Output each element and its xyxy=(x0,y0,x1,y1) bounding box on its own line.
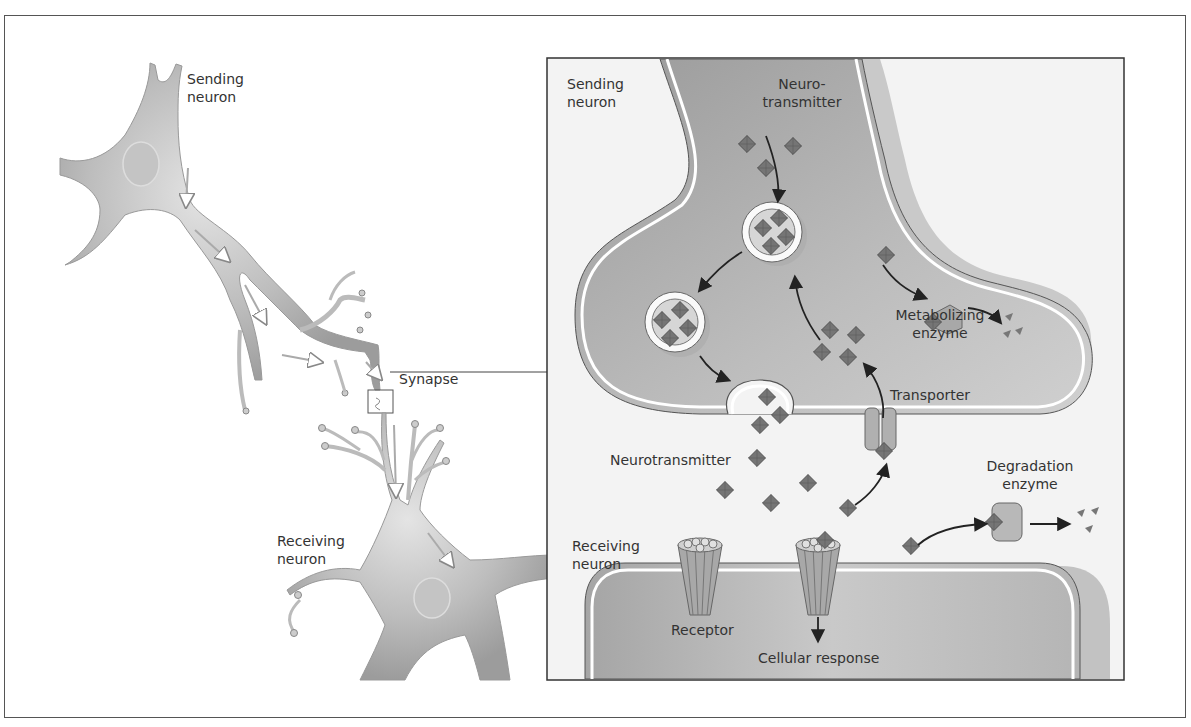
label-sending-neuron: Sending neuron xyxy=(187,70,244,106)
synapse-highlight-box xyxy=(368,390,393,413)
label-transporter: Transporter xyxy=(890,386,970,404)
label-synapse: Synapse xyxy=(399,370,458,388)
label-receptor: Receptor xyxy=(671,621,734,639)
label-metabolizing-enzyme: Metabolizing enzyme xyxy=(880,306,1000,342)
label-detail-sending-neuron: Sending neuron xyxy=(567,75,624,111)
label-neurotransmitter-cleft: Neurotransmitter xyxy=(610,451,731,469)
label-cellular-response: Cellular response xyxy=(758,649,879,667)
sending-neuron-illustration xyxy=(60,63,380,414)
label-neurotransmitter-top: Neuro- transmitter xyxy=(746,75,858,111)
label-receiving-neuron: Receiving neuron xyxy=(277,532,345,568)
label-degradation-enzyme: Degradation enzyme xyxy=(975,457,1085,493)
synapse-detail-panel xyxy=(547,58,1124,680)
label-detail-receiving-neuron: Receiving neuron xyxy=(572,537,640,573)
